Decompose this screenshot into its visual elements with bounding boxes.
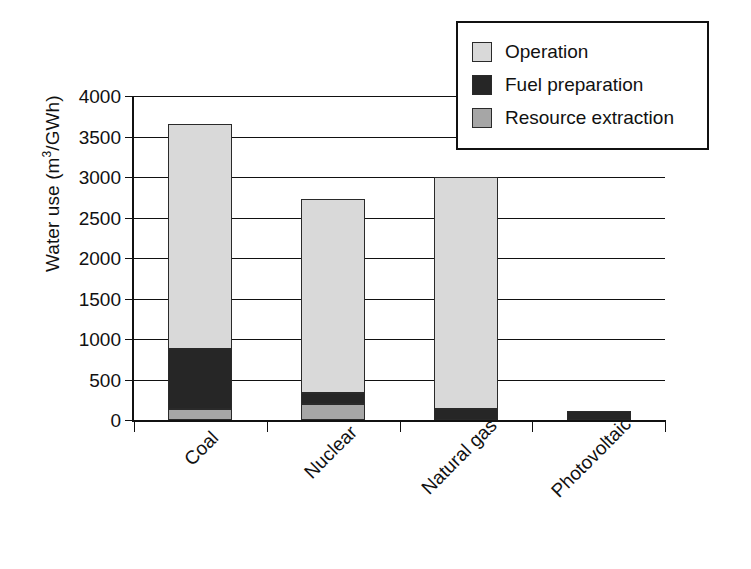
y-tick-label-0: 0 (110, 411, 121, 430)
x-tick-mark-4 (665, 420, 666, 432)
bar-segment-resource-extraction[interactable] (168, 409, 232, 420)
y-tick-label-4000: 4000 (79, 87, 121, 106)
y-tick-mark-2500 (125, 218, 134, 219)
y-tick-label-2000: 2000 (79, 249, 121, 268)
x-tick-mark-3 (532, 420, 533, 432)
y-tick-mark-3500 (125, 137, 134, 138)
y-axis-title: Water use (m3/GWh) (40, 24, 63, 344)
y-tick-mark-500 (125, 380, 134, 381)
chart-legend: OperationFuel preparationResource extrac… (456, 21, 709, 150)
fuel-preparation-swatch (472, 75, 492, 95)
operation-swatch (472, 42, 492, 62)
y-tick-mark-1500 (125, 299, 134, 300)
bar-segment-resource-extraction[interactable] (301, 404, 365, 420)
y-axis-title-suffix: /GWh) (42, 95, 63, 150)
legend-item-operation[interactable]: Operation (472, 35, 693, 68)
y-tick-label-3000: 3000 (79, 168, 121, 187)
x-tick-mark-0 (134, 420, 135, 432)
y-tick-label-2500: 2500 (79, 208, 121, 227)
y-tick-mark-0 (125, 420, 134, 421)
y-axis-title-prefix: Water use (m (42, 157, 63, 272)
y-tick-mark-2000 (125, 258, 134, 259)
bar-segment-operation[interactable] (434, 177, 498, 409)
y-tick-mark-1000 (125, 339, 134, 340)
y-tick-label-500: 500 (89, 370, 121, 389)
x-axis-label-photovoltaic: Photovoltaic (547, 414, 634, 501)
resource-extraction-swatch (472, 108, 492, 128)
legend-label: Operation (505, 42, 588, 61)
legend-label: Resource extraction (505, 108, 674, 127)
y-tick-mark-3000 (125, 177, 134, 178)
y-tick-label-1500: 1500 (79, 289, 121, 308)
y-tick-mark-4000 (125, 96, 134, 97)
legend-label: Fuel preparation (505, 75, 643, 94)
bar-segment-operation[interactable] (168, 124, 232, 349)
legend-item-fuel-preparation[interactable]: Fuel preparation (472, 68, 693, 101)
bar-segment-fuel-preparation[interactable] (301, 393, 365, 404)
x-axis-label-coal: Coal (181, 428, 222, 469)
x-axis-label-nuclear: Nuclear (301, 422, 361, 482)
x-tick-mark-1 (267, 420, 268, 432)
bar-segment-operation[interactable] (301, 199, 365, 393)
y-tick-label-1000: 1000 (79, 330, 121, 349)
bar-segment-fuel-preparation[interactable] (168, 349, 232, 409)
water-use-stacked-bar-chart: Water use (m3/GWh) 400035003000250020001… (0, 0, 751, 569)
y-axis-title-exponent: 3 (40, 151, 54, 158)
x-tick-mark-2 (400, 420, 401, 432)
x-axis-label-natural-gas: Natural gas (418, 415, 500, 497)
y-tick-label-3500: 3500 (79, 127, 121, 146)
legend-item-resource-extraction[interactable]: Resource extraction (472, 101, 693, 134)
